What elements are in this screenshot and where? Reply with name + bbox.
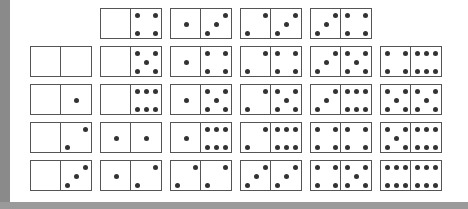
domino-half-left-3 [311,9,341,38]
pip-icon [354,89,359,94]
pip-icon [205,89,210,94]
pip-icon [263,127,268,132]
domino-half-left-1 [171,123,201,152]
pip-icon [223,165,228,170]
pip-icon [363,89,368,94]
pip-icon [345,183,350,188]
pip-icon [135,69,140,74]
pip-icon [153,165,158,170]
pip-icon [433,165,438,170]
pip-icon [315,127,320,132]
pip-icon [114,174,119,179]
domino-half-left-2 [241,47,271,76]
domino-half-left-4 [311,123,341,152]
pip-icon [354,60,359,65]
domino-half-left-5 [381,123,411,152]
pip-icon [214,127,219,132]
pip-icon [385,165,390,170]
pip-icon [135,51,140,56]
pip-icon [135,183,140,188]
pip-icon [205,183,210,188]
pip-icon [385,51,390,56]
domino-half-right-4 [341,9,371,38]
domino-half-right-2 [131,161,161,190]
pip-icon [205,31,210,36]
pip-icon [424,165,429,170]
pip-icon [214,22,219,27]
domino-half-right-4 [271,47,301,76]
pip-icon [284,145,289,150]
pip-icon [415,127,420,132]
domino-half-right-4 [341,123,371,152]
domino-3-3 [240,160,302,191]
pip-icon [403,107,408,112]
domino-half-right-5 [131,47,161,76]
domino-half-right-6 [411,161,441,190]
pip-icon [363,13,368,18]
domino-half-left-2 [171,161,201,190]
domino-half-right-6 [341,85,371,114]
pip-icon [153,89,158,94]
pip-icon [415,107,420,112]
domino-4-6 [380,46,442,77]
domino-half-left-0 [31,85,61,114]
pip-icon [144,89,149,94]
pip-icon [363,107,368,112]
domino-0-4 [100,8,162,39]
pip-icon [315,107,320,112]
pip-icon [293,107,298,112]
pip-icon [275,89,280,94]
pip-icon [424,51,429,56]
pip-icon [324,60,329,65]
pip-icon [433,107,438,112]
pip-icon [315,69,320,74]
pip-icon [345,107,350,112]
pip-icon [223,127,228,132]
pip-icon [83,165,88,170]
domino-0-0 [30,46,92,77]
pip-icon [65,183,70,188]
domino-half-right-6 [131,85,161,114]
pip-icon [153,31,158,36]
domino-half-left-4 [311,161,341,190]
domino-1-2 [100,160,162,191]
pip-icon [333,51,338,56]
pip-icon [424,183,429,188]
domino-half-right-4 [131,9,161,38]
pip-icon [293,51,298,56]
pip-icon [245,107,250,112]
pip-icon [293,69,298,74]
domino-half-right-3 [61,161,91,190]
domino-half-left-0 [101,9,131,38]
domino-0-1 [30,84,92,115]
domino-half-right-4 [201,47,231,76]
domino-5-6 [380,122,442,153]
pip-icon [223,107,228,112]
pip-icon [403,145,408,150]
domino-2-3 [240,8,302,39]
pip-icon [363,51,368,56]
domino-half-right-3 [271,9,301,38]
pip-icon [433,51,438,56]
pip-icon [254,174,259,179]
pip-icon [433,145,438,150]
domino-3-6 [310,84,372,115]
pip-icon [263,165,268,170]
pip-icon [184,60,189,65]
domino-half-left-1 [171,9,201,38]
domino-half-left-5 [381,85,411,114]
pip-icon [385,107,390,112]
domino-half-right-6 [411,47,441,76]
domino-half-right-6 [271,123,301,152]
pip-icon [245,183,250,188]
pip-icon [315,165,320,170]
domino-2-2 [170,160,232,191]
pip-icon [424,127,429,132]
pip-icon [275,51,280,56]
pip-icon [275,69,280,74]
pip-icon [345,89,350,94]
domino-half-right-6 [411,123,441,152]
domino-1-5 [170,84,232,115]
pip-icon [65,145,70,150]
pip-icon [184,98,189,103]
